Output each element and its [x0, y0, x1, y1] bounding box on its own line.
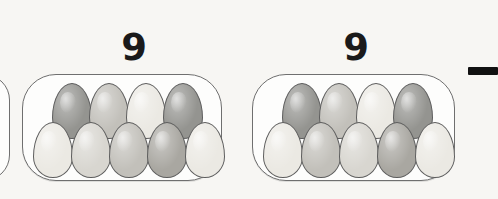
carton-count-label: 9 — [332, 29, 380, 66]
dash-mark — [468, 67, 498, 75]
egg-carton-partial — [0, 74, 10, 181]
carton-count-label: 9 — [110, 29, 158, 66]
